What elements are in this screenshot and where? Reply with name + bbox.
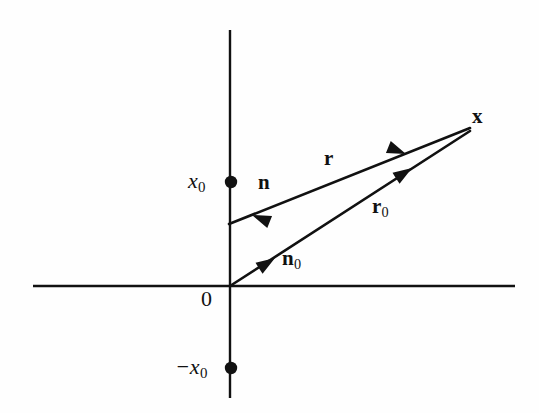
vector-group [229,128,470,286]
label-minus-x0-main: x [190,354,200,379]
label-x0: x0 [188,170,205,192]
label-origin: 0 [201,288,212,310]
vector-r0-arrowhead-tail [256,258,275,274]
label-unit-vector-n-main: n [258,170,270,194]
axis-group [33,30,515,398]
label-x0-main: x [188,168,198,193]
label-field-point-x: x [472,106,483,127]
label-minus-x0-prefix: − [175,354,190,379]
label-minus-x0-subscript: 0 [200,365,207,381]
vector-r0-arrowhead-mid [393,168,412,184]
label-unit-vector-n: n [258,172,270,193]
label-vector-r-main: r [324,146,333,170]
label-unit-vector-n0-subscript: 0 [294,256,301,272]
label-minus-x0: −x0 [175,356,207,378]
label-x0-subscript: 0 [198,179,205,195]
vector-r-arrowhead-mid [386,141,406,154]
point-dot-source-upper [225,176,237,188]
label-vector-r: r [324,148,333,169]
label-vector-r0-main: r [372,194,381,218]
label-unit-vector-n0-main: n [282,246,294,270]
label-vector-r0: r0 [372,196,388,217]
diagram-canvas [0,0,539,413]
label-vector-r0-subscript: 0 [382,204,389,220]
point-dot-source-lower [225,362,237,374]
label-unit-vector-n0: n0 [282,248,301,269]
vector-r-arrowhead-tail [252,215,272,228]
vector-diagram-figure: x0 −x0 0 x r r0 n n0 [0,0,539,413]
